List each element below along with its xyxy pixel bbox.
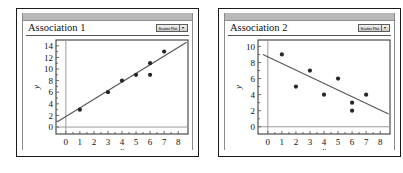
svg-text:0: 0	[266, 137, 271, 147]
svg-text:4: 4	[49, 99, 54, 109]
chevron-down-icon: ▾	[381, 25, 388, 31]
svg-text:3: 3	[106, 137, 111, 147]
panel-header-left: Association 1 Scatter Plot ▾	[26, 21, 189, 36]
svg-text:14: 14	[44, 41, 54, 51]
svg-text:10: 10	[246, 42, 256, 52]
svg-text:2: 2	[49, 111, 54, 121]
svg-text:x: x	[119, 145, 124, 150]
svg-text:3: 3	[308, 137, 313, 147]
svg-text:5: 5	[336, 137, 341, 147]
svg-text:y: y	[233, 85, 243, 90]
svg-text:12: 12	[44, 53, 53, 63]
window-inner-right: Association 2 Scatter Plot ▾ 02468100123…	[224, 13, 395, 150]
plot-type-label-right: Scatter Plot	[360, 25, 379, 32]
svg-text:2: 2	[251, 106, 256, 116]
calculator-window-association-1: Association 1 Scatter Plot ▾ 02468101214…	[16, 8, 199, 157]
svg-text:6: 6	[251, 74, 256, 84]
window-inner-left: Association 1 Scatter Plot ▾ 02468101214…	[22, 13, 193, 150]
title-band-left	[23, 13, 192, 21]
plot-type-dropdown-right[interactable]: Scatter Plot ▾	[358, 24, 390, 32]
svg-text:2: 2	[294, 137, 299, 147]
scatter-plot-association-1[interactable]: 02468101214012345678xy	[26, 36, 189, 150]
svg-text:8: 8	[49, 76, 54, 86]
title-band-right	[225, 13, 394, 21]
chevron-down-icon: ▾	[179, 25, 186, 31]
svg-text:2: 2	[92, 137, 97, 147]
svg-text:5: 5	[134, 137, 139, 147]
svg-text:y: y	[31, 85, 41, 90]
plot-type-dropdown-left[interactable]: Scatter Plot ▾	[156, 24, 188, 32]
svg-text:8: 8	[251, 58, 256, 68]
svg-text:0: 0	[64, 137, 69, 147]
svg-text:4: 4	[251, 90, 256, 100]
svg-text:8: 8	[378, 137, 383, 147]
svg-text:x: x	[321, 145, 326, 150]
svg-text:10: 10	[44, 64, 54, 74]
svg-text:1: 1	[78, 137, 83, 147]
plot-type-label-left: Scatter Plot	[158, 25, 177, 32]
panel-header-right: Association 2 Scatter Plot ▾	[228, 21, 391, 36]
svg-text:8: 8	[176, 137, 181, 147]
calculator-window-association-2: Association 2 Scatter Plot ▾ 02468100123…	[218, 8, 401, 157]
svg-text:6: 6	[49, 87, 54, 97]
svg-text:0: 0	[49, 122, 54, 132]
scatter-plot-association-2[interactable]: 0246810012345678xy	[228, 36, 391, 150]
svg-text:1: 1	[280, 137, 285, 147]
svg-text:7: 7	[162, 137, 167, 147]
svg-text:6: 6	[350, 137, 355, 147]
svg-text:0: 0	[251, 122, 256, 132]
svg-text:7: 7	[364, 137, 369, 147]
screenshot-root: Association 1 Scatter Plot ▾ 02468101214…	[0, 0, 403, 173]
svg-text:6: 6	[148, 137, 153, 147]
page-title-association-1: Association 1	[28, 23, 85, 34]
page-title-association-2: Association 2	[230, 23, 287, 34]
chart-svg-association-1: 02468101214012345678xy	[26, 36, 189, 150]
chart-svg-association-2: 0246810012345678xy	[228, 36, 391, 150]
